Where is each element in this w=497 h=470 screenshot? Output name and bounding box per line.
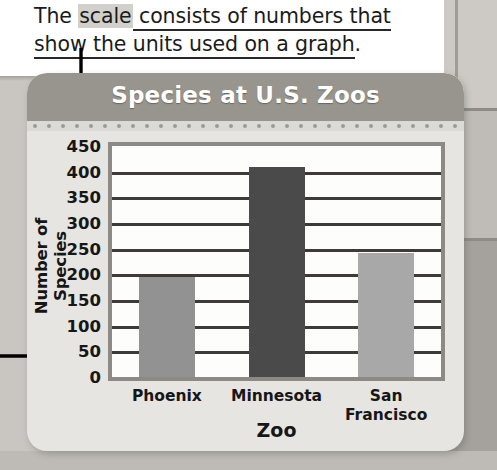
divider-dot xyxy=(145,124,149,128)
x-axis-tick-label: SanFrancisco xyxy=(331,387,441,425)
divider-dot xyxy=(159,124,163,128)
plot-area xyxy=(108,142,445,381)
divider-dot xyxy=(439,124,443,128)
divider-dot xyxy=(313,124,317,128)
divider-dot xyxy=(173,124,177,128)
divider-dot xyxy=(117,124,121,128)
chart-title: Species at U.S. Zoos xyxy=(27,82,464,108)
y-axis-tick-label: 100 xyxy=(57,316,101,335)
screenshot-root: The scale consists of numbers that show … xyxy=(0,0,497,470)
divider-dot xyxy=(327,124,331,128)
divider-dot xyxy=(201,124,205,128)
divider-dot xyxy=(103,124,107,128)
background-tile xyxy=(0,451,497,470)
bar-minnesota xyxy=(249,167,305,377)
caption-line1-rest: consists of numbers that xyxy=(133,4,391,31)
caption-period: . xyxy=(355,32,361,56)
divider-dot xyxy=(453,124,457,128)
divider-dot xyxy=(285,124,289,128)
y-axis-tick-label: 0 xyxy=(57,368,101,387)
divider-dot xyxy=(243,124,247,128)
divider-dot xyxy=(89,124,93,128)
divider-dot xyxy=(271,124,275,128)
divider-dot xyxy=(411,124,415,128)
plot-area-wrapper: Number of Species 4504003503002502001501… xyxy=(27,131,464,451)
divider-dot xyxy=(229,124,233,128)
y-axis-tick-label: 50 xyxy=(57,342,101,361)
y-axis-tick-label: 300 xyxy=(57,214,101,233)
divider-dot xyxy=(299,124,303,128)
y-axis-tick-label: 450 xyxy=(57,137,101,156)
y-axis-tick-label: 350 xyxy=(57,188,101,207)
y-axis-tick-label: 400 xyxy=(57,162,101,181)
y-axis-ticks: 450400350300250200150100500 xyxy=(57,131,101,381)
bar-san-francisco xyxy=(358,253,414,377)
caption-prefix: The xyxy=(34,4,78,28)
divider-dot xyxy=(75,124,79,128)
divider-dot xyxy=(47,124,51,128)
caption-text: The scale consists of numbers that show … xyxy=(34,2,454,58)
highlighted-term: scale xyxy=(78,4,132,28)
divider-dot xyxy=(383,124,387,128)
x-axis-tick-label: Phoenix xyxy=(112,387,222,406)
divider-dot xyxy=(425,124,429,128)
divider-dot xyxy=(397,124,401,128)
divider-dot xyxy=(369,124,373,128)
divider-dot xyxy=(187,124,191,128)
y-axis-tick-label: 200 xyxy=(57,265,101,284)
divider-dot xyxy=(61,124,65,128)
divider-dot xyxy=(355,124,359,128)
bar-phoenix xyxy=(139,277,195,377)
divider-dot xyxy=(215,124,219,128)
y-axis-tick-label: 150 xyxy=(57,291,101,310)
plot-inner xyxy=(112,146,441,377)
chart-card: Species at U.S. Zoos Number of Species 4… xyxy=(27,73,464,451)
divider-dot xyxy=(341,124,345,128)
y-axis-tick-label: 250 xyxy=(57,239,101,258)
divider-dot xyxy=(131,124,135,128)
x-axis-tick-label: Minnesota xyxy=(222,387,332,406)
dotted-divider xyxy=(27,121,464,131)
divider-dot xyxy=(33,124,37,128)
divider-dot xyxy=(257,124,261,128)
